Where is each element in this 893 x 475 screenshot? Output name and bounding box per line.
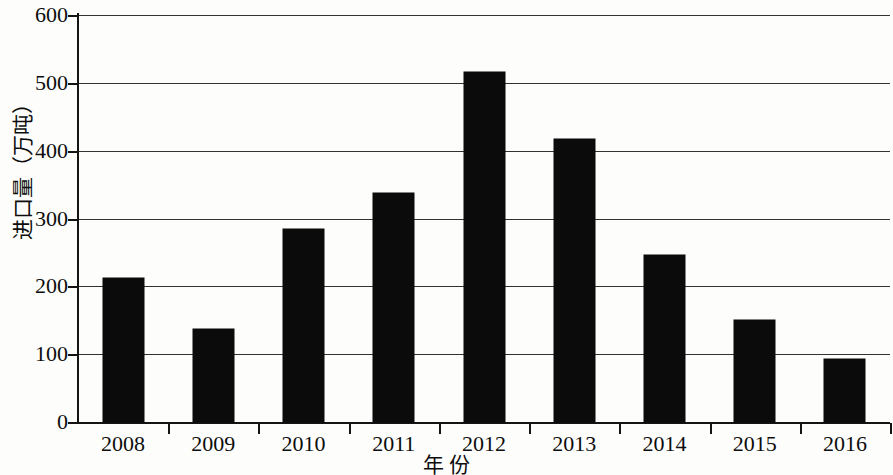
y-axis-tick-label: 400 xyxy=(22,140,68,162)
bar xyxy=(824,359,865,422)
x-axis-title: 年 份 xyxy=(0,455,893,475)
y-axis-tick-label: 100 xyxy=(22,343,68,365)
y-axis-tick-mark xyxy=(68,354,79,356)
bar xyxy=(103,278,144,422)
y-axis-tick-label: 500 xyxy=(22,72,68,94)
y-axis-tick-mark xyxy=(68,151,79,153)
y-axis-tick-label: 300 xyxy=(22,208,68,230)
x-axis-tick-label: 2009 xyxy=(168,432,258,456)
y-axis-tick-mark xyxy=(68,422,79,424)
x-axis-tick-label: 2013 xyxy=(529,432,619,456)
bar xyxy=(193,329,234,422)
y-axis-tick-mark xyxy=(68,219,79,221)
bar xyxy=(373,193,414,422)
y-axis-tick-label: 600 xyxy=(22,4,68,26)
gridline xyxy=(78,15,890,16)
gridline xyxy=(78,422,890,424)
y-axis-tick-labels: 0100200300400500600 xyxy=(10,0,68,475)
x-axis-tick-label: 2011 xyxy=(349,432,439,456)
plot-area xyxy=(78,15,890,422)
bar-chart-figure: 进口量（万吨） 0100200300400500600 年 份 20082009… xyxy=(0,0,893,475)
y-axis-tick-mark xyxy=(68,286,79,288)
y-axis-tick-mark xyxy=(68,83,79,85)
x-axis-tick-label: 2014 xyxy=(619,432,709,456)
bar xyxy=(554,139,595,422)
y-axis-tick-label: 200 xyxy=(22,275,68,297)
bar xyxy=(734,320,775,422)
x-axis-tick-label: 2008 xyxy=(78,432,168,456)
bar xyxy=(644,255,685,422)
x-axis-tick-mark xyxy=(890,423,892,434)
x-axis-tick-label: 2010 xyxy=(259,432,349,456)
y-axis-tick-label: 0 xyxy=(22,411,68,433)
x-axis-tick-label: 2012 xyxy=(439,432,529,456)
x-axis-tick-label: 2016 xyxy=(800,432,890,456)
bar xyxy=(283,229,324,422)
x-axis-tick-label: 2015 xyxy=(710,432,800,456)
bar xyxy=(464,72,505,422)
y-axis-tick-mark xyxy=(68,15,79,17)
